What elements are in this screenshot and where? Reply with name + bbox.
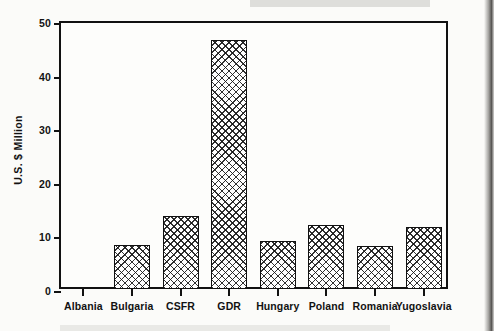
scan-artifact-right-edge: [484, 0, 494, 331]
x-tick-mark-yugoslavia: [423, 289, 425, 296]
y-axis-title: U.S. $ Million: [12, 115, 24, 185]
bars-layer: [59, 21, 448, 289]
x-tick-label-poland: Poland: [309, 300, 345, 312]
x-axis: AlbaniaBulgariaCSFRGDRHungaryPolandRoman…: [59, 289, 448, 331]
x-tick-label-hungary: Hungary: [256, 300, 299, 312]
x-tick-mark-csfr: [180, 289, 182, 296]
x-tick-label-romania: Romania: [353, 300, 398, 312]
bar-slot-romania: [351, 21, 400, 289]
x-tick-label-yugoslavia: Yugoslavia: [396, 300, 452, 312]
x-tick-label-albania: Albania: [64, 300, 103, 312]
x-tick-mark-poland: [325, 289, 327, 296]
x-tick-mark-bulgaria: [131, 289, 133, 296]
x-tick-label-bulgaria: Bulgaria: [111, 300, 154, 312]
x-tick-label-csfr: CSFR: [166, 300, 195, 312]
bar-bulgaria: [114, 245, 150, 289]
bar-slot-yugoslavia: [399, 21, 448, 289]
bar-slot-poland: [302, 21, 351, 289]
y-tick-label: 0: [45, 285, 51, 297]
bar-csfr: [163, 216, 199, 289]
bar-yugoslavia: [406, 227, 442, 289]
x-tick-label-gdr: GDR: [217, 300, 241, 312]
bar-hungary: [260, 241, 296, 289]
x-tick-mark-romania: [374, 289, 376, 296]
bar-gdr: [211, 40, 247, 289]
scan-artifact-top: [250, 0, 430, 7]
y-tick-label: 30: [39, 124, 51, 136]
y-tick-label: 20: [39, 178, 51, 190]
x-tick-mark-albania: [82, 289, 84, 296]
x-tick-mark-hungary: [277, 289, 279, 296]
x-tick-mark-gdr: [228, 289, 230, 296]
bar-romania: [357, 246, 393, 289]
y-tick-label: 10: [39, 231, 51, 243]
y-tick-label: 40: [39, 71, 51, 83]
bar-slot-hungary: [254, 21, 303, 289]
bar-poland: [308, 225, 344, 289]
chart-page: U.S. $ Million 50403020100 AlbaniaBulgar…: [0, 0, 494, 331]
y-tick-label: 50: [39, 17, 51, 29]
bar-slot-csfr: [156, 21, 205, 289]
bar-slot-gdr: [205, 21, 254, 289]
bar-slot-bulgaria: [108, 21, 157, 289]
bar-slot-albania: [59, 21, 108, 289]
